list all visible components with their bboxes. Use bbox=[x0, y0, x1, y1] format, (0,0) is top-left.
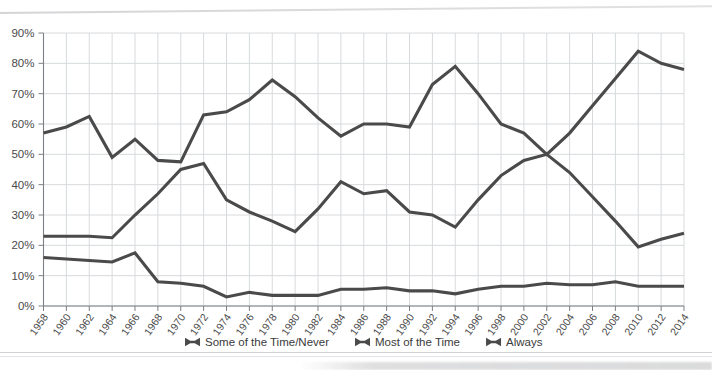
y-axis-tick-label: 30% bbox=[11, 209, 34, 221]
y-axis-tick-label: 60% bbox=[11, 118, 34, 130]
x-axis-tick-label: 1980 bbox=[279, 311, 302, 337]
x-axis-tick-label: 1996 bbox=[462, 311, 485, 337]
x-axis-tick-label: 2000 bbox=[507, 311, 530, 337]
x-axis-tick-label: 1974 bbox=[210, 311, 233, 337]
y-axis-tick-labels: 0%10%20%30%40%50%60%70%80%90% bbox=[11, 27, 34, 312]
legend-item: Always bbox=[486, 336, 543, 348]
x-axis-tick-label: 2006 bbox=[576, 311, 599, 337]
x-axis-tick-label: 1986 bbox=[347, 311, 370, 337]
x-axis-tick-label: 2010 bbox=[622, 311, 645, 337]
y-axis-tick-label: 70% bbox=[11, 88, 34, 100]
x-axis-tick-label: 1994 bbox=[439, 311, 462, 337]
chart-legend: Some of the Time/NeverMost of the TimeAl… bbox=[185, 336, 543, 348]
legend-marker-icon bbox=[355, 338, 370, 346]
x-axis-tick-label: 1984 bbox=[324, 311, 347, 337]
x-axis-tick-label: 1998 bbox=[484, 311, 507, 337]
x-axis-tick-label: 1992 bbox=[416, 311, 439, 337]
x-axis-tick-label: 1960 bbox=[50, 311, 73, 337]
footer-caption-cutoff bbox=[300, 362, 712, 370]
y-axis-tick-label: 0% bbox=[18, 300, 35, 312]
y-axis-tick-label: 20% bbox=[11, 239, 34, 251]
footer-divider bbox=[0, 352, 712, 353]
x-axis-tick-label: 1972 bbox=[187, 311, 210, 337]
x-axis-tick-label: 2012 bbox=[645, 311, 668, 337]
legend-label: Always bbox=[506, 336, 543, 348]
grid-layer bbox=[44, 33, 685, 306]
legend-item: Most of the Time bbox=[355, 336, 460, 348]
x-axis-tick-label: 2014 bbox=[667, 311, 690, 337]
x-axis-tick-label: 1964 bbox=[96, 311, 119, 337]
x-axis-tick-label: 1978 bbox=[256, 311, 279, 337]
x-axis-tick-label: 1962 bbox=[73, 311, 96, 337]
x-axis-tick-label: 1966 bbox=[118, 311, 141, 337]
x-axis-tick-label: 1968 bbox=[141, 311, 164, 337]
legend-label: Most of the Time bbox=[375, 336, 460, 348]
chart-container: 0%10%20%30%40%50%60%70%80%90% 1958196019… bbox=[0, 0, 712, 370]
y-axis-tick-label: 50% bbox=[11, 148, 34, 160]
y-axis-tick-label: 80% bbox=[11, 57, 34, 69]
line-chart: 0%10%20%30%40%50%60%70%80%90% 1958196019… bbox=[0, 0, 712, 370]
x-axis-tick-label: 1988 bbox=[370, 311, 393, 337]
legend-marker-icon bbox=[185, 338, 200, 346]
x-axis-tick-label: 2002 bbox=[530, 311, 553, 337]
x-axis-tick-label: 2004 bbox=[553, 311, 576, 337]
x-axis-tick-label: 1982 bbox=[301, 311, 324, 337]
x-axis-tick-label: 1970 bbox=[164, 311, 187, 337]
x-axis-tick-label: 1976 bbox=[233, 311, 256, 337]
x-axis-tick-label: 2008 bbox=[599, 311, 622, 337]
y-axis-tick-label: 90% bbox=[11, 27, 34, 39]
x-axis-tick-label: 1958 bbox=[27, 311, 50, 337]
y-axis-tick-label: 10% bbox=[11, 270, 34, 282]
y-axis-tick-label: 40% bbox=[11, 179, 34, 191]
x-axis-tick-labels: 1958196019621964196619681970197219741976… bbox=[27, 311, 691, 337]
x-axis-tick-label: 1990 bbox=[393, 311, 416, 337]
legend-marker-icon bbox=[486, 338, 501, 346]
legend-label: Some of the Time/Never bbox=[205, 336, 329, 348]
legend-item: Some of the Time/Never bbox=[185, 336, 329, 348]
footer-divider-secondary bbox=[0, 356, 712, 357]
